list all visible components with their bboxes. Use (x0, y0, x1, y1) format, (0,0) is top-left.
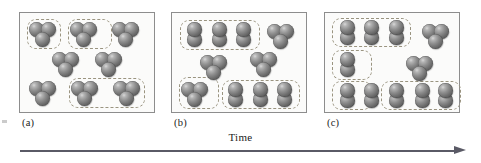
atom-sphere (340, 52, 355, 67)
atom-sphere (187, 22, 202, 37)
atom-sphere (35, 91, 50, 106)
atom-sphere (187, 92, 202, 107)
atom-sphere (277, 82, 292, 97)
time-axis-label: Time (0, 131, 481, 143)
atom-sphere (101, 62, 116, 77)
atom-sphere (389, 20, 404, 35)
panel-b-content (172, 13, 306, 112)
atom-sphere (118, 32, 133, 47)
scan-artifact (2, 120, 7, 123)
atom-sphere (389, 83, 404, 98)
reaction-progress-figure: (a) (b) (c) Time (0, 0, 481, 163)
panel-a-label: (a) (22, 117, 34, 128)
panel-b (171, 12, 307, 113)
atom-sphere (256, 62, 271, 77)
atom-sphere (206, 65, 221, 80)
time-arrow (20, 147, 466, 156)
panel-c-label: (c) (327, 117, 339, 128)
atom-sphere (364, 83, 379, 98)
atom-sphere (415, 83, 430, 98)
atom-sphere (58, 62, 73, 77)
atom-sphere (428, 34, 443, 49)
time-arrow-head-icon (454, 146, 466, 154)
atom-sphere (412, 66, 427, 81)
panel-c-content (325, 13, 459, 112)
atom-sphere (438, 83, 453, 98)
atom-sphere (212, 22, 227, 37)
panel-b-label: (b) (174, 117, 187, 128)
atom-sphere (273, 34, 288, 49)
atom-sphere (77, 91, 92, 106)
atom-sphere (253, 82, 268, 97)
atom-sphere (236, 22, 251, 37)
panel-a-content (20, 13, 154, 112)
atom-sphere (364, 20, 379, 35)
atom-sphere (228, 82, 243, 97)
panel-a (19, 12, 155, 113)
atom-sphere (340, 20, 355, 35)
atom-sphere (76, 32, 91, 47)
atom-sphere (35, 32, 50, 47)
time-arrow-shaft (20, 150, 457, 152)
panel-c (324, 12, 460, 113)
atom-sphere (119, 91, 134, 106)
atom-sphere (340, 83, 355, 98)
